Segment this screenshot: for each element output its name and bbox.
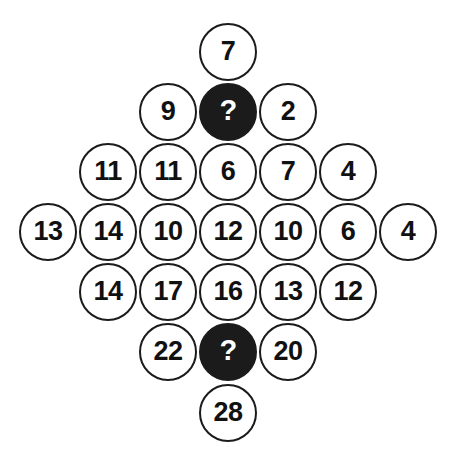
puzzle-cell: 6 [198, 142, 258, 202]
puzzle-row-2: 1111674 [0, 142, 456, 202]
circle-value: 11 [94, 158, 122, 185]
circle-value: ? [219, 336, 236, 365]
number-circle: 11 [139, 143, 197, 201]
number-circle: 6 [319, 203, 377, 261]
circle-value: 9 [161, 98, 176, 125]
circle-value: 12 [333, 278, 362, 305]
circle-value: 6 [341, 218, 356, 245]
number-circle: 14 [79, 263, 137, 321]
puzzle-cell: 10 [258, 202, 318, 262]
circle-value: 17 [153, 278, 182, 305]
number-circle: 11 [79, 143, 137, 201]
number-circle: 4 [379, 203, 437, 261]
circle-value: 7 [221, 38, 236, 65]
number-circle: 17 [139, 263, 197, 321]
circle-value: 2 [281, 98, 296, 125]
number-circle: 6 [199, 143, 257, 201]
circle-value: ? [219, 96, 236, 125]
puzzle-cell: 22 [138, 322, 198, 382]
puzzle-row-4: 1417161312 [0, 262, 456, 322]
number-circle: 13 [19, 203, 77, 261]
number-circle: 22 [139, 323, 197, 381]
puzzle-cell: 13 [258, 262, 318, 322]
number-circle: 2 [259, 83, 317, 141]
circle-value: 20 [273, 338, 302, 365]
puzzle-cell: 28 [198, 383, 258, 443]
puzzle-row-3: 131410121064 [0, 202, 456, 262]
number-circle: 9 [139, 83, 197, 141]
number-puzzle-board: 79?21111674131410121064141716131222?2028 [0, 0, 456, 465]
circle-value: 10 [153, 218, 182, 245]
number-circle: 14 [79, 203, 137, 261]
puzzle-cell: 4 [378, 202, 438, 262]
circle-value: 14 [93, 278, 122, 305]
puzzle-cell: 2 [258, 82, 318, 142]
puzzle-cell: 11 [78, 142, 138, 202]
circle-value: 10 [273, 218, 302, 245]
puzzle-cell: 13 [18, 202, 78, 262]
circle-value: 4 [401, 218, 416, 245]
puzzle-cell: 7 [198, 22, 258, 82]
number-circle: 12 [199, 203, 257, 261]
number-circle: 16 [199, 263, 257, 321]
number-circle: 13 [259, 263, 317, 321]
puzzle-cell: 7 [258, 142, 318, 202]
circle-value: 12 [213, 218, 242, 245]
number-circle: 7 [199, 23, 257, 81]
puzzle-row-5: 22?20 [0, 322, 456, 382]
circle-value: 22 [153, 338, 182, 365]
circle-value: 7 [281, 158, 296, 185]
puzzle-cell: ? [198, 322, 258, 382]
puzzle-cell: 11 [138, 142, 198, 202]
circle-value: 16 [213, 278, 242, 305]
circle-value: 11 [154, 158, 182, 185]
number-circle: 10 [139, 203, 197, 261]
puzzle-cell: 9 [138, 82, 198, 142]
circle-value: 28 [213, 399, 242, 426]
puzzle-row-1: 9?2 [0, 82, 456, 142]
unknown-number-circle[interactable]: ? [199, 83, 257, 141]
circle-value: 4 [341, 158, 356, 185]
puzzle-row-0: 7 [0, 22, 456, 82]
puzzle-cell: 20 [258, 322, 318, 382]
number-circle: 4 [319, 143, 377, 201]
number-circle: 12 [319, 263, 377, 321]
puzzle-cell: 12 [198, 202, 258, 262]
number-circle: 7 [259, 143, 317, 201]
number-circle: 10 [259, 203, 317, 261]
puzzle-cell: 14 [78, 262, 138, 322]
puzzle-cell: ? [198, 82, 258, 142]
puzzle-cell: 4 [318, 142, 378, 202]
number-circle: 28 [199, 384, 257, 442]
circle-value: 14 [93, 218, 122, 245]
puzzle-cell: 6 [318, 202, 378, 262]
puzzle-row-6: 28 [0, 383, 456, 443]
unknown-number-circle[interactable]: ? [199, 323, 257, 381]
circle-value: 6 [221, 158, 236, 185]
circle-value: 13 [273, 278, 302, 305]
number-circle: 20 [259, 323, 317, 381]
puzzle-cell: 17 [138, 262, 198, 322]
puzzle-cell: 10 [138, 202, 198, 262]
puzzle-cell: 14 [78, 202, 138, 262]
puzzle-cell: 16 [198, 262, 258, 322]
puzzle-cell: 12 [318, 262, 378, 322]
circle-value: 13 [33, 218, 62, 245]
